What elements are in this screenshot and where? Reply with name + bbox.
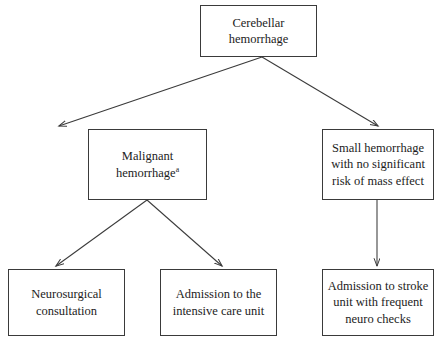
node-line: Malignant: [122, 149, 173, 163]
node-icu-admission-label: Admission to the intensive care unit: [165, 286, 272, 319]
node-line: neuro checks: [345, 312, 411, 326]
node-neurosurgical-consultation[interactable]: Neurosurgical consultation: [8, 269, 125, 336]
node-malignant-hemorrhage[interactable]: Malignant hemorrhagea: [88, 129, 207, 200]
node-line: Admission to the: [176, 287, 261, 301]
node-line: Small hemorrhage: [332, 141, 424, 155]
node-line: risk of mass effect: [332, 174, 424, 188]
edge-root-to-malignant: [59, 57, 262, 126]
node-neurosurgical-consultation-label: Neurosurgical consultation: [13, 286, 120, 319]
node-line: Cerebellar: [232, 16, 284, 30]
node-line: with no significant: [331, 157, 425, 171]
flowchart-canvas: Cerebellar hemorrhage Malignant hemorrha…: [0, 0, 445, 347]
footnote-marker: a: [176, 164, 179, 173]
node-line: hemorrhage: [229, 32, 289, 46]
node-malignant-hemorrhage-label: Malignant hemorrhagea: [93, 148, 202, 181]
edge-malignant-to-icu: [147, 200, 222, 266]
node-line: hemorrhage: [116, 166, 176, 180]
node-cerebellar-hemorrhage-label: Cerebellar hemorrhage: [205, 15, 312, 48]
node-small-hemorrhage[interactable]: Small hemorrhage with no significant ris…: [322, 129, 434, 200]
node-icu-admission[interactable]: Admission to the intensive care unit: [160, 269, 277, 336]
node-line: unit with frequent: [333, 295, 423, 309]
node-cerebellar-hemorrhage[interactable]: Cerebellar hemorrhage: [200, 5, 317, 57]
node-stroke-unit-admission-label: Admission to stroke unit with frequent n…: [327, 278, 429, 328]
node-line: intensive care unit: [173, 304, 265, 318]
edge-malignant-to-neurosurgical: [56, 200, 147, 266]
node-line: Admission to stroke: [328, 279, 429, 293]
node-stroke-unit-admission[interactable]: Admission to stroke unit with frequent n…: [322, 269, 434, 336]
node-line: consultation: [36, 304, 97, 318]
edge-root-to-small: [262, 57, 378, 126]
node-small-hemorrhage-label: Small hemorrhage with no significant ris…: [327, 140, 429, 190]
node-line: Neurosurgical: [31, 287, 102, 301]
